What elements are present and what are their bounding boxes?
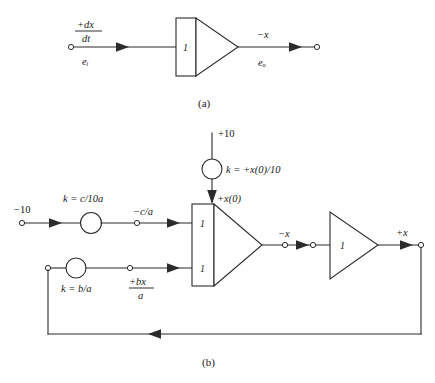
panel-b-inverter-gain: 1 (340, 240, 345, 251)
panel-b-minus-x-terminal-left[interactable] (282, 242, 287, 247)
panel-b-minus-x-terminal-right[interactable] (310, 242, 315, 247)
panel-b-group (19, 133, 423, 339)
panel-b-integrator-gain-bottom: 1 (200, 263, 205, 274)
panel-b-ic-output-label: +x(0) (217, 193, 241, 205)
panel-b-ic-pot-label: k = +x(0)/10 (226, 164, 281, 176)
panel-b-caption: (b) (202, 356, 215, 369)
panel-b-input-potentiometer[interactable] (81, 213, 102, 234)
panel-b-input-pot-output-label: −c/a (133, 206, 153, 217)
panel-a-integrator-gain: 1 (183, 42, 188, 53)
panel-b-output-terminal[interactable] (418, 242, 423, 247)
panel-b-feedback-denominator: a (138, 290, 143, 301)
panel-b-feedback-pot-output-terminal[interactable] (127, 265, 132, 270)
panel-b-integrator-gain-top: 1 (200, 218, 205, 229)
panel-b-input-arrow-icon (49, 218, 62, 228)
panel-a-input-arrow-icon (116, 42, 129, 52)
panel-b-input-pot-output-terminal[interactable] (134, 220, 139, 225)
panel-b-feedback-numerator: +bx (129, 276, 146, 287)
panel-a-output-arrow-icon (289, 42, 302, 52)
panel-b-input-pot-label: k = c/10a (63, 193, 103, 204)
panel-a-input-numerator: +dx (77, 19, 94, 30)
panel-b-feedback-arrow-icon (167, 263, 180, 273)
panel-b-input-arrow2-icon (167, 218, 180, 228)
panel-b-inverter-triangle[interactable] (330, 212, 378, 279)
panel-a-input-denominator: dt (82, 33, 91, 44)
panel-b-inverter-output-label: +x (396, 227, 408, 238)
panel-a-group (68, 18, 319, 76)
panel-a-integrator-triangle[interactable] (196, 18, 238, 76)
panel-a-caption: (a) (198, 97, 211, 110)
panel-a-input-signal-label: eᵢ (82, 56, 89, 67)
analog-computer-figure: +dx dt eᵢ 1 −x eₒ (a) +10 k = +x(0)/10 +… (0, 0, 435, 383)
panel-b-ic-arrow-icon (207, 190, 217, 204)
panel-b-input-terminal[interactable] (19, 220, 24, 225)
panel-b-minus-x-arrow-icon (296, 240, 309, 250)
panel-b-integrator-triangle[interactable] (214, 204, 262, 286)
panel-a-output-terminal[interactable] (314, 44, 319, 49)
diagram-canvas: +dx dt eᵢ 1 −x eₒ (a) +10 k = +x(0)/10 +… (0, 0, 435, 383)
panel-a-input-terminal[interactable] (68, 44, 73, 49)
panel-a-output-label: −x (257, 29, 269, 40)
panel-b-ic-source-label: +10 (218, 128, 234, 139)
panel-b-integrator-output-label: −x (278, 228, 290, 239)
panel-b-output-arrow-icon (400, 240, 413, 250)
panel-b-feedback-potentiometer[interactable] (66, 258, 86, 278)
panel-b-feedback-pot-label: k = b/a (61, 283, 91, 294)
panel-a-output-signal-label: eₒ (258, 57, 266, 68)
panel-b-input-source-label: −10 (14, 204, 30, 215)
panel-b-feedback-loop-arrow-icon (148, 329, 161, 339)
panel-b-ic-potentiometer[interactable] (202, 159, 222, 179)
